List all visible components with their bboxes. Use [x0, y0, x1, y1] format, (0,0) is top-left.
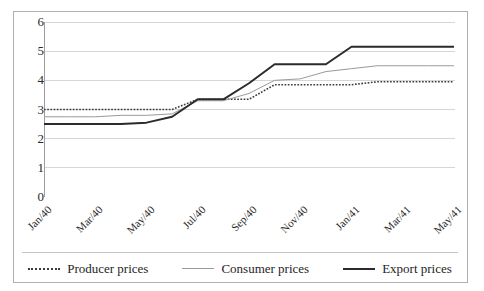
legend-label: Export prices	[382, 262, 452, 276]
legend-divider	[22, 252, 458, 253]
x-tick-label: Sep/40	[223, 204, 259, 240]
legend-label: Producer prices	[67, 262, 148, 276]
x-tick-label: May/41	[428, 204, 464, 240]
legend-item[interactable]: Export prices	[343, 262, 452, 276]
series-line-producer-prices	[44, 82, 454, 110]
x-tick-label: Jan/40	[18, 204, 54, 240]
legend-item[interactable]: Consumer prices	[182, 262, 309, 276]
legend-item[interactable]: Producer prices	[28, 262, 148, 276]
x-tick-label: Nov/40	[274, 204, 310, 240]
line-swatch-dotted	[28, 264, 60, 274]
legend-label: Consumer prices	[221, 262, 309, 276]
line-swatch-thin	[182, 264, 214, 274]
series-line-export-prices	[44, 47, 454, 124]
line-swatch-thick	[343, 264, 375, 274]
x-tick-label: Jan/41	[325, 204, 361, 240]
plot-area	[44, 22, 455, 197]
x-tick-label: Mar/40	[69, 204, 105, 240]
x-tick-label: May/40	[120, 204, 156, 240]
chart-legend: Producer pricesConsumer pricesExport pri…	[22, 258, 458, 280]
x-tick-label: Mar/41	[376, 204, 412, 240]
plot-svg	[44, 22, 455, 197]
x-tick-label: Jul/40	[171, 204, 207, 240]
chart-figure: 6543210 Jan/40Mar/40May/40Jul/40Sep/40No…	[0, 0, 484, 291]
